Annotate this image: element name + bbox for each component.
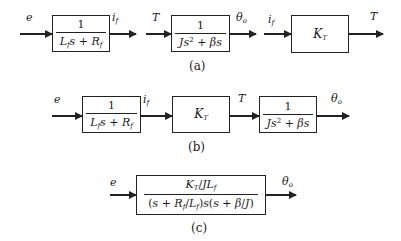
denominator: Lfs + Rf [86, 114, 137, 130]
transfer-function-b1: 1 Lfs + Rf [86, 100, 137, 130]
gain-KT: KT [313, 27, 327, 42]
denominator: Js2 + βs [263, 115, 314, 129]
arrow-e-to-c1 [110, 194, 136, 196]
numerator: 1 [193, 20, 208, 33]
arrow-b1-to-b2 [141, 115, 172, 117]
caption-c: (c) [191, 222, 207, 234]
arrow-if-to-a3 [264, 33, 291, 35]
transfer-function-a1: 1 Lfs + Rf [56, 19, 107, 49]
arrow-b3-out [317, 115, 349, 117]
block-b2-torque-constant: KT [172, 96, 230, 133]
signal-label-e: e [110, 177, 117, 188]
signal-label-theta-o: θo [282, 176, 293, 189]
signal-label-if: if [112, 12, 118, 25]
denominator: Lfs + Rf [56, 33, 107, 49]
arrow-a1-out [110, 33, 136, 35]
signal-label-if: if [268, 14, 274, 27]
signal-label-theta-o: θo [331, 93, 342, 106]
block-b1-field-circuit: 1 Lfs + Rf [82, 96, 141, 133]
signal-label-theta-o: θo [236, 12, 247, 25]
numerator: 1 [104, 100, 119, 113]
numerator: KT/JLf [182, 179, 221, 194]
arrow-b2-to-b3 [230, 115, 259, 117]
arrow-T-to-a2 [146, 33, 171, 35]
signal-label-e: e [26, 12, 33, 23]
denominator: (s + Rf/Lf)s(s + β/J) [144, 195, 258, 211]
caption-b: (b) [188, 141, 205, 153]
arrow-e-to-b1 [52, 115, 82, 117]
signal-label-T: T [238, 93, 245, 104]
numerator: 1 [73, 19, 88, 32]
block-a1-field-circuit: 1 Lfs + Rf [52, 15, 110, 52]
transfer-function-c1: KT/JLf (s + Rf/Lf)s(s + β/J) [144, 179, 258, 211]
arrow-a3-out [349, 33, 383, 35]
signal-label-e: e [54, 94, 61, 105]
block-b3-load: 1 Js2 + βs [259, 96, 317, 133]
gain-KT: KT [194, 107, 208, 122]
caption-a: (a) [189, 60, 206, 72]
signal-label-if: if [143, 94, 149, 107]
denominator: Js2 + βs [175, 34, 226, 48]
block-a3-torque-constant: KT [291, 15, 349, 53]
transfer-function-a2: 1 Js2 + βs [175, 20, 226, 48]
transfer-function-b3: 1 Js2 + βs [263, 101, 314, 129]
arrow-e-to-a1 [20, 33, 52, 35]
block-c1-combined: KT/JLf (s + Rf/Lf)s(s + β/J) [136, 175, 266, 215]
signal-label-T: T [370, 11, 377, 22]
block-a2-load: 1 Js2 + βs [171, 15, 230, 52]
arrow-a2-out [230, 33, 256, 35]
signal-label-T: T [152, 12, 159, 23]
arrow-c1-out [266, 194, 296, 196]
numerator: 1 [280, 101, 295, 114]
